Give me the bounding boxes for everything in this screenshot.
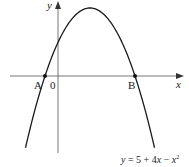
x-axis-label: x bbox=[176, 79, 181, 90]
y-axis-arrow-icon bbox=[55, 1, 61, 9]
eq-exponent: 2 bbox=[176, 154, 179, 160]
equation-label: y = 5 + 4x − x2 bbox=[121, 154, 179, 165]
eq-middle: = 5 + 4 bbox=[125, 154, 156, 165]
parabola-graph bbox=[0, 0, 189, 167]
y-axis-label: y bbox=[47, 0, 52, 11]
point-a-label: A bbox=[34, 80, 42, 91]
point-a-marker bbox=[43, 74, 47, 78]
point-b-label: B bbox=[128, 80, 135, 91]
eq-minus: − bbox=[161, 154, 172, 165]
point-b-marker bbox=[133, 74, 137, 78]
origin-label: 0 bbox=[50, 80, 56, 91]
